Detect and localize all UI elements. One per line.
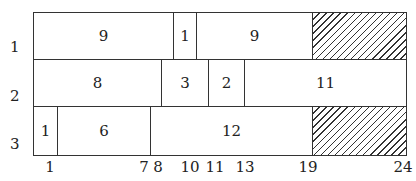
block: 2 — [208, 59, 245, 107]
row-label: 1 — [10, 38, 20, 56]
block: 12 — [150, 106, 313, 156]
axis-tick-label: 1 — [45, 158, 55, 176]
axis-tick-label: 13 — [235, 158, 254, 176]
block: 8 — [33, 59, 162, 107]
block: 1 — [173, 12, 197, 60]
hatched-block — [312, 12, 407, 60]
block: 9 — [33, 12, 174, 60]
block: 9 — [196, 12, 313, 60]
row-label: 3 — [10, 135, 20, 153]
axis-tick-label: 8 — [153, 158, 163, 176]
block: 3 — [161, 59, 209, 107]
block: 6 — [57, 106, 151, 156]
axis-tick-label: 10 — [180, 158, 199, 176]
hatched-block — [312, 106, 407, 156]
axis-tick-label: 11 — [205, 158, 224, 176]
axis-tick-label: 24 — [393, 158, 412, 176]
axis-tick-label: 19 — [298, 158, 317, 176]
block: 11 — [244, 59, 407, 107]
row-label: 2 — [10, 87, 20, 105]
block: 1 — [33, 106, 58, 156]
axis-tick-label: 7 — [139, 158, 149, 176]
